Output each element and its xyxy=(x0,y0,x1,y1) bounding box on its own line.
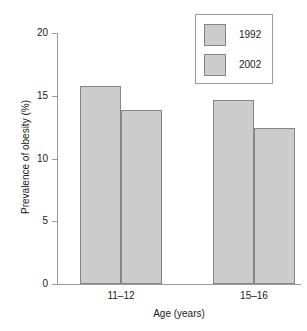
legend-label-2002: 2002 xyxy=(239,60,261,70)
bar-2002-15-16 xyxy=(254,128,295,284)
bar-1992-15-16 xyxy=(213,100,254,284)
y-axis-tick-label-20: 20 xyxy=(0,28,48,38)
legend-swatch-2002 xyxy=(204,54,226,76)
x-axis-line xyxy=(57,284,301,285)
legend-label-1992: 1992 xyxy=(239,30,261,40)
y-axis-tick-5 xyxy=(52,221,57,222)
x-axis-category-label-0: 11–12 xyxy=(91,290,151,301)
y-axis-tick-10 xyxy=(52,159,57,160)
bar-chart-figure: 20 15 10 5 0 Prevalence of obesity (%) 1… xyxy=(0,0,307,331)
legend-entry-1992: 1992 xyxy=(204,22,268,48)
y-axis-line xyxy=(57,33,58,285)
x-axis-title: Age (years) xyxy=(57,308,301,319)
y-axis-tick-0 xyxy=(52,284,57,285)
y-axis-tick-label-0: 0 xyxy=(0,279,48,289)
legend: 1992 2002 xyxy=(195,14,273,84)
y-axis-tick-15 xyxy=(52,96,57,97)
legend-swatch-1992 xyxy=(204,24,226,46)
bar-2002-11-12 xyxy=(121,110,162,284)
y-axis-tick-20 xyxy=(52,33,57,34)
x-axis-category-label-1: 15–16 xyxy=(224,290,284,301)
bar-1992-11-12 xyxy=(80,86,121,284)
y-axis-title: Prevalence of obesity (%) xyxy=(21,57,31,257)
legend-entry-2002: 2002 xyxy=(204,52,268,78)
